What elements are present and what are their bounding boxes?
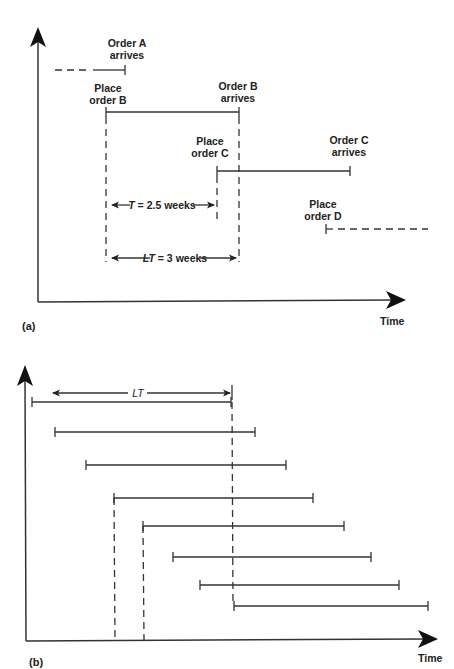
y-axis-b [25, 378, 26, 641]
lt-label-b: LT [132, 387, 145, 399]
place-order-b-label-2: order B [89, 94, 127, 106]
lt-dimension-label-a: LT = 3 weeks [143, 252, 207, 264]
order-b-arrives-label-2: arrives [221, 92, 256, 104]
order-b-arrives-label-1: Order B [218, 80, 258, 92]
order-c-arrives-label-1: Order C [329, 134, 369, 146]
t-dimension-label: T = 2.5 weeks [128, 199, 196, 211]
staggered-order-lines [32, 397, 428, 611]
t-value: = 2.5 weeks [135, 199, 196, 211]
place-order-c-label-1: Place [196, 135, 224, 147]
order-5-dashed-guide [143, 526, 144, 640]
x-axis-label-b: Time [418, 652, 442, 664]
panel-label-a: (a) [22, 320, 36, 332]
x-axis-b [26, 639, 424, 641]
order-a-label-2: arrives [110, 49, 145, 61]
panel-b: Time (b) LT [17, 365, 442, 668]
place-order-d-label-2: order D [304, 210, 342, 222]
x-axis-a [38, 300, 392, 302]
order-4-dashed-guide [114, 498, 115, 640]
place-order-b-label-1: Place [94, 82, 122, 94]
order-a-label-1: Order A [108, 37, 147, 49]
panel-a: Time (a) Order A arrives Place order B O… [22, 27, 428, 332]
order-c-arrives-label-2: arrives [332, 146, 367, 158]
x-axis-label-a: Time [380, 315, 404, 327]
place-order-d-label-1: Place [309, 198, 337, 210]
inventory-review-diagram: Time (a) Order A arrives Place order B O… [0, 0, 454, 669]
lt-value-a: = 3 weeks [155, 252, 207, 264]
panel-label-b: (b) [29, 656, 43, 668]
place-order-c-label-2: order C [191, 147, 229, 159]
